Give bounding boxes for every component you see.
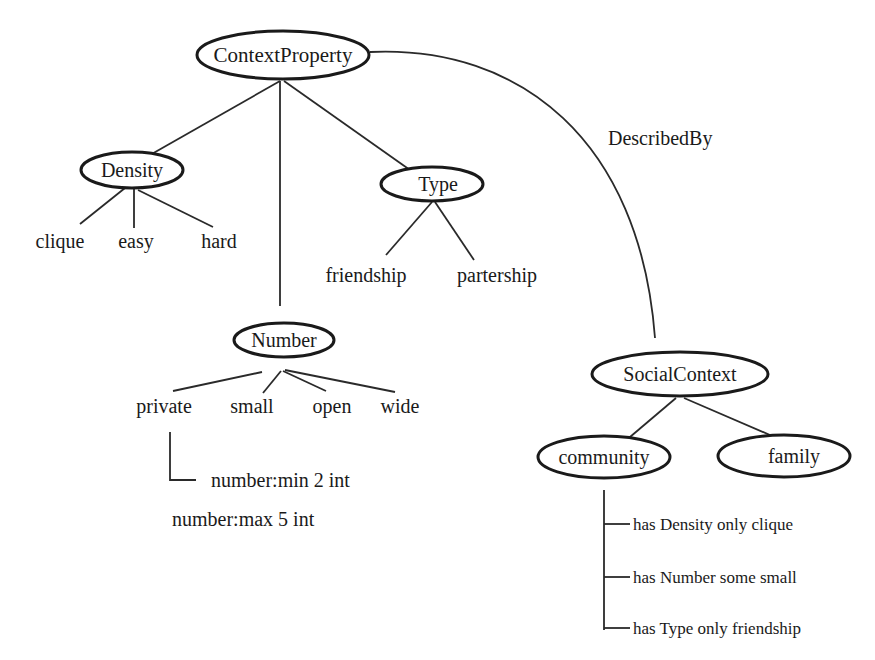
edge-number-wide xyxy=(285,370,395,392)
node-type: Type xyxy=(381,167,483,201)
number-constraints: number:min 2 int number:max 5 int xyxy=(172,469,350,530)
density-values: clique easy hard xyxy=(36,230,237,253)
edge-private-constraint xyxy=(170,432,196,480)
node-family: family xyxy=(718,435,850,477)
restriction-type: has Type only friendship xyxy=(633,619,801,638)
leaf-friendship: friendship xyxy=(325,264,406,287)
constraint-max: number:max 5 int xyxy=(172,508,315,530)
node-label: Density xyxy=(101,159,163,182)
type-values: friendship partership xyxy=(325,264,537,287)
restriction-density: has Density only clique xyxy=(633,515,793,534)
node-socialcontext: SocialContext xyxy=(592,352,768,396)
node-label: community xyxy=(558,446,649,469)
edge-number-private xyxy=(173,372,262,391)
edge-contextproperty-type xyxy=(284,81,410,170)
node-label: Number xyxy=(251,329,317,351)
leaf-easy: easy xyxy=(118,230,154,253)
edge-density-clique xyxy=(80,188,125,224)
leaf-small: small xyxy=(230,395,274,417)
relation-describedby-label: DescribedBy xyxy=(608,127,712,150)
edge-type-partership xyxy=(435,202,474,260)
node-number: Number xyxy=(234,323,334,357)
edge-socialcontext-family xyxy=(684,398,770,435)
node-community: community xyxy=(538,436,670,478)
leaf-partership: partership xyxy=(457,264,537,287)
constraint-min: number:min 2 int xyxy=(211,469,350,491)
leaf-wide: wide xyxy=(381,395,420,417)
node-label: ContextProperty xyxy=(214,43,353,67)
community-restrictions: has Density only clique has Number some … xyxy=(633,515,801,638)
leaf-hard: hard xyxy=(201,230,237,252)
edge-socialcontext-community xyxy=(630,398,676,437)
edge-contextproperty-density xyxy=(150,81,280,155)
edge-number-small xyxy=(263,371,281,393)
leaf-clique: clique xyxy=(36,230,85,253)
edge-type-friendship xyxy=(386,202,432,255)
number-values: private small open wide xyxy=(136,395,419,418)
node-density: Density xyxy=(81,152,183,188)
node-label: family xyxy=(768,445,820,468)
node-label: Type xyxy=(418,173,458,196)
restriction-number: has Number some small xyxy=(633,568,797,587)
leaf-private: private xyxy=(136,395,192,418)
ontology-diagram: ContextProperty Density Type Number Soci… xyxy=(0,0,875,660)
edge-density-hard xyxy=(138,190,213,227)
node-contextproperty: ContextProperty xyxy=(197,31,369,79)
node-label: SocialContext xyxy=(623,363,737,385)
leaf-open: open xyxy=(313,395,352,418)
